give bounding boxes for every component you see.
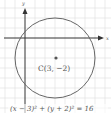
y-axis-arrow-icon	[23, 8, 28, 14]
center-point	[54, 56, 57, 59]
x-axis-arrow-icon	[98, 36, 104, 41]
equation-label: (x − 3)² + (y + 2)² = 16	[10, 105, 94, 113]
center-label: C(3, −2)	[38, 64, 70, 73]
y-axis	[23, 8, 28, 113]
diagram-canvas: y x C(3, −2) (x − 3)² + (y + 2)² = 16	[0, 0, 111, 113]
x-axis-label: x	[106, 35, 109, 41]
y-axis-label: y	[21, 0, 25, 7]
